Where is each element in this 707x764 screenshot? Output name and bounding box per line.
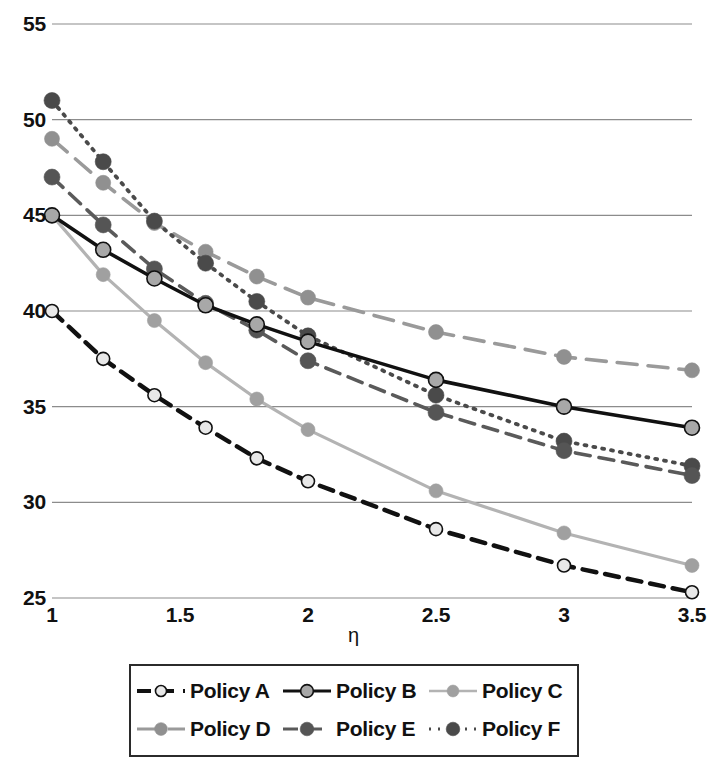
chart-plot-svg — [0, 0, 707, 640]
data-point — [95, 154, 111, 170]
legend-marker — [300, 722, 314, 736]
data-point — [147, 271, 162, 286]
legend-item-policy-c[interactable]: Policy C — [427, 672, 573, 710]
y-tick-label: 40 — [2, 300, 46, 321]
series-policy-f — [44, 93, 700, 474]
legend-marker — [301, 685, 314, 698]
data-point — [249, 317, 264, 332]
data-point — [96, 242, 111, 257]
data-point — [45, 208, 60, 223]
legend-swatch-policy-c-icon — [427, 680, 479, 702]
data-point — [686, 586, 699, 599]
data-point — [44, 169, 60, 185]
x-axis-title: η — [0, 624, 707, 647]
data-point — [300, 353, 316, 369]
legend-swatch-policy-d-icon — [135, 718, 187, 740]
y-tick-label: 45 — [2, 204, 46, 225]
data-point — [96, 268, 110, 282]
data-point — [46, 305, 59, 318]
data-point — [556, 443, 572, 459]
legend-label: Policy E — [336, 717, 415, 741]
data-point — [250, 452, 263, 465]
data-point — [301, 334, 316, 349]
data-point — [430, 523, 443, 536]
data-point — [146, 213, 162, 229]
legend-swatch-policy-f-icon — [427, 718, 479, 740]
data-point — [428, 387, 444, 403]
legend-item-policy-b[interactable]: Policy B — [281, 672, 427, 710]
data-point — [429, 484, 443, 498]
series-policy-d — [45, 131, 700, 378]
legend-label: Policy F — [482, 717, 560, 741]
data-point — [199, 421, 212, 434]
legend-row: Policy DPolicy EPolicy F — [135, 710, 573, 748]
data-point — [685, 420, 700, 435]
series-policy-e — [44, 169, 700, 483]
data-point — [198, 298, 213, 313]
y-tick-label: 35 — [2, 396, 46, 417]
data-point — [95, 217, 111, 233]
series-policy-c — [45, 208, 699, 572]
legend-item-policy-f[interactable]: Policy F — [427, 710, 573, 748]
legend-marker — [447, 685, 459, 697]
x-tick-label: 3.5 — [678, 604, 707, 625]
data-point — [557, 349, 572, 364]
data-point — [249, 269, 264, 284]
data-point — [301, 290, 316, 305]
legend-marker — [446, 722, 460, 736]
data-point — [147, 314, 161, 328]
data-point — [249, 293, 265, 309]
data-point — [685, 363, 700, 378]
data-point — [250, 392, 264, 406]
series-policy-a — [46, 305, 699, 599]
data-point — [96, 175, 111, 190]
legend-label: Policy C — [482, 679, 562, 703]
legend-item-policy-a[interactable]: Policy A — [135, 672, 281, 710]
data-point — [198, 255, 214, 271]
data-point — [557, 399, 572, 414]
data-point — [557, 526, 571, 540]
legend-row: Policy APolicy BPolicy C — [135, 672, 573, 710]
y-tick-label: 55 — [2, 13, 46, 34]
gridlines — [52, 24, 692, 598]
data-point — [45, 131, 60, 146]
data-point — [301, 423, 315, 437]
data-point — [428, 404, 444, 420]
data-point — [97, 352, 110, 365]
y-tick-label: 50 — [2, 109, 46, 130]
legend-swatch-policy-a-icon — [135, 680, 187, 702]
legend-label: Policy B — [336, 679, 416, 703]
legend-item-policy-d[interactable]: Policy D — [135, 710, 281, 748]
legend-label: Policy A — [190, 679, 270, 703]
chart-legend: Policy APolicy BPolicy CPolicy DPolicy E… — [129, 664, 579, 757]
legend-swatch-policy-e-icon — [281, 718, 333, 740]
data-point — [148, 389, 161, 402]
data-point — [684, 468, 700, 484]
series-line — [52, 139, 692, 371]
legend-label: Policy D — [190, 717, 270, 741]
data-point — [685, 558, 699, 572]
data-point — [199, 356, 213, 370]
data-point — [429, 325, 444, 340]
x-tick-label: 2.5 — [422, 604, 451, 625]
plot-area — [0, 0, 707, 640]
y-tick-label: 30 — [2, 491, 46, 512]
legend-swatch-policy-b-icon — [281, 680, 333, 702]
data-point — [302, 475, 315, 488]
legend-marker — [155, 723, 168, 736]
x-tick-label: 3 — [558, 604, 569, 625]
data-point — [558, 559, 571, 572]
legend-marker — [155, 685, 166, 696]
legend-item-policy-e[interactable]: Policy E — [281, 710, 427, 748]
data-point — [44, 93, 60, 109]
series-line — [52, 311, 692, 592]
x-tick-label: 1.5 — [166, 604, 195, 625]
x-tick-label: 2 — [302, 604, 313, 625]
x-tick-label: 1 — [46, 604, 57, 625]
data-point — [429, 372, 444, 387]
y-axis-tick-labels: 25303540455055 — [0, 0, 46, 640]
chart-figure: 25303540455055 11.522.533.5 η Policy APo… — [0, 0, 707, 764]
series-policy-b — [45, 208, 700, 435]
